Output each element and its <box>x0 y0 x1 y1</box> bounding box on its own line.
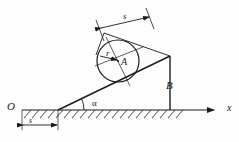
label-distance-d: s <box>29 117 32 125</box>
label-distance-s: s <box>123 12 127 21</box>
mechanics-diagram: O x B A r s α s <box>0 0 239 142</box>
label-point-a: A <box>121 57 127 67</box>
label-origin: O <box>7 101 15 112</box>
incline-line <box>58 56 170 110</box>
angle-arc <box>82 99 85 111</box>
label-radius: r <box>106 49 110 58</box>
block-left-edge <box>96 33 104 55</box>
label-angle-alpha: α <box>92 99 97 108</box>
label-point-b: B <box>166 80 173 91</box>
dimension-s-tick-left <box>96 20 104 41</box>
label-x-axis: x <box>227 103 231 113</box>
dimension-s-tick-right <box>146 8 154 29</box>
diagram-canvas <box>0 0 239 142</box>
ground-hatching <box>24 110 183 118</box>
